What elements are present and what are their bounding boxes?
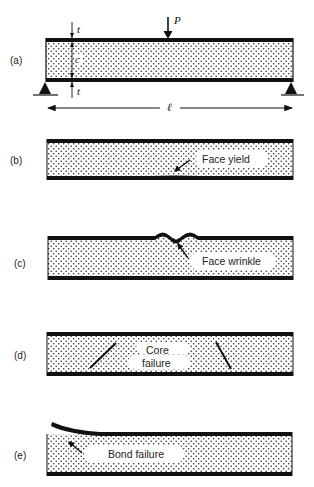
bottom-face xyxy=(48,276,293,280)
panel-label-c: (c) xyxy=(14,258,26,269)
debonded-top-face xyxy=(51,422,292,436)
panel-a: (a) P t c t xyxy=(10,14,304,113)
span-label: ℓ xyxy=(167,101,172,113)
failure-label-face-yield: Face yield xyxy=(202,153,250,165)
top-face xyxy=(47,332,293,336)
core-thickness-label: c xyxy=(75,53,80,65)
core xyxy=(46,40,293,80)
left-support-icon xyxy=(33,82,58,95)
bottom-face xyxy=(47,176,293,181)
panel-d: (d) Core failure xyxy=(14,332,293,376)
panel-b: (b) Face yield xyxy=(10,139,293,180)
failure-label-core-line2: failure xyxy=(142,357,171,369)
failure-label-bond: Bond failure xyxy=(108,448,164,460)
face-thickness-label-bottom: t xyxy=(77,85,81,97)
panel-e: (e) Bond failure xyxy=(14,422,292,476)
load-arrow-icon xyxy=(164,17,173,39)
failure-label-core-line1: Core xyxy=(146,344,169,356)
face-thickness-label-top: t xyxy=(77,23,81,35)
panel-label-b: (b) xyxy=(10,155,22,166)
load-label: P xyxy=(173,14,181,26)
panel-label-e: (e) xyxy=(14,450,26,461)
panel-label-d: (d) xyxy=(14,350,26,361)
bottom-face xyxy=(47,372,293,376)
right-support-icon xyxy=(281,82,304,95)
top-face xyxy=(47,139,293,143)
bottom-face xyxy=(46,78,293,82)
failure-label-face-wrinkle: Face wrinkle xyxy=(202,255,261,267)
sandwich-failure-diagram: (a) P t c t xyxy=(0,0,314,487)
top-face xyxy=(46,38,293,42)
panel-label-a: (a) xyxy=(10,55,22,66)
panel-c: (c) Face wrinkle xyxy=(14,233,293,281)
bottom-face xyxy=(47,472,292,476)
